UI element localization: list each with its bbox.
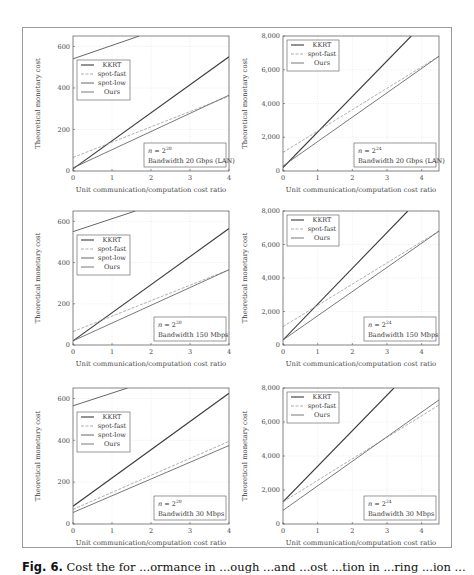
x-tick-label: 1 [110,174,114,182]
legend: KKRTspot-fastOurs [287,215,339,246]
y-axis-label: Theoretical monetary cost [34,58,42,149]
legend-entry: KKRT [103,413,122,421]
x-tick-label: 3 [188,174,192,182]
x-tick-label: 3 [385,527,389,535]
legend-entry: KKRT [313,41,332,49]
y-tick-label: 400 [58,259,70,267]
y-tick-label: 2,000 [261,486,280,494]
legend-entry: spot-fast [98,245,127,253]
legend-entry: spot-fast [308,50,337,58]
svg-text:Bandwidth 30 Mbps: Bandwidth 30 Mbps [368,510,434,518]
legend-entry: Ours [314,411,330,419]
y-tick-label: 400 [58,84,70,92]
y-tick-label: 0 [276,520,280,528]
y-axis-label: Theoretical monetary cost [241,410,249,501]
legend-entry: spot-fast [98,70,127,78]
legend-entry: spot-low [98,431,126,439]
chart-panel-top-left: 012340200400600Unit communication/comput… [34,36,235,194]
x-tick-label: 4 [420,348,424,356]
y-tick-label: 6,000 [261,66,280,74]
x-tick-label: 0 [281,174,285,182]
x-axis-label: Unit communication/computation cost rati… [286,360,436,368]
legend-entry: Ours [104,263,120,271]
x-tick-label: 3 [385,348,389,356]
y-axis-label: Theoretical monetary cost [34,410,42,501]
annotation-box: n = 224Bandwidth 150 Mbps [364,317,438,341]
y-tick-label: 0 [66,341,70,349]
x-tick-label: 2 [350,527,354,535]
chart-panel-bottom-left: 012340200400600Unit communication/comput… [34,388,231,547]
x-axis-label: Unit communication/computation cost rati… [286,186,436,194]
x-tick-label: 3 [385,174,389,182]
y-tick-label: 200 [58,478,70,486]
svg-text:Bandwidth 150 Mbps: Bandwidth 150 Mbps [158,331,228,339]
x-tick-label: 4 [420,174,424,182]
legend-entry: KKRT [313,393,332,401]
svg-text:Bandwidth 30 Mbps: Bandwidth 30 Mbps [158,510,224,518]
y-tick-label: 600 [58,395,70,403]
legend: KKRTspot-fastOurs [287,40,339,71]
x-tick-label: 1 [316,527,320,535]
svg-text:Bandwidth 150 Mbps: Bandwidth 150 Mbps [368,331,438,339]
x-tick-label: 2 [350,348,354,356]
x-axis-label: Unit communication/computation cost rati… [76,539,226,547]
y-tick-label: 2,000 [261,133,280,141]
x-tick-label: 4 [227,348,231,356]
y-axis-label: Theoretical monetary cost [34,232,42,323]
legend-entry: Ours [104,440,120,448]
chart-panel-middle-right: 0123402,0004,0006,0008,000Unit communica… [241,207,439,368]
x-tick-label: 1 [316,174,320,182]
y-tick-label: 0 [66,167,70,175]
x-tick-label: 4 [420,527,424,535]
chart-panel-bottom-right: 0123402,0004,0006,0008,000Unit communica… [241,384,439,547]
svg-text:Bandwidth 20 Gbps (LAN): Bandwidth 20 Gbps (LAN) [358,157,445,165]
y-tick-label: 0 [66,520,70,528]
legend: KKRTspot-fastspot-lowOurs [77,60,130,100]
x-tick-label: 2 [350,174,354,182]
legend-entry: Ours [104,88,120,96]
x-tick-label: 4 [227,174,231,182]
x-tick-label: 1 [110,348,114,356]
x-tick-label: 1 [316,348,320,356]
legend-entry: spot-fast [98,422,127,430]
series-spot-low [73,388,128,406]
x-tick-label: 0 [71,174,75,182]
legend-entry: Ours [314,234,330,242]
y-tick-label: 600 [58,218,70,226]
y-tick-label: 200 [58,300,70,308]
legend-entry: spot-fast [308,402,337,410]
annotation-box: n = 224Bandwidth 20 Gbps (LAN) [354,143,445,167]
figure-caption: Fig. 6. Cost the for ...ormance in ...ou… [22,560,466,574]
y-tick-label: 600 [58,43,70,51]
chart-panel-middle-left: 012340200400600Unit communication/comput… [34,211,231,368]
x-tick-label: 0 [281,527,285,535]
y-tick-label: 200 [58,126,70,134]
x-axis-label: Unit communication/computation cost rati… [76,360,226,368]
x-tick-label: 1 [110,527,114,535]
legend-entry: KKRT [103,61,122,69]
y-tick-label: 4,000 [261,100,280,108]
x-tick-label: 2 [149,174,153,182]
y-tick-label: 8,000 [261,32,280,40]
annotation-box: n = 220Bandwidth 20 Gbps (LAN) [144,143,235,167]
x-tick-label: 2 [149,348,153,356]
y-tick-label: 8,000 [261,207,280,215]
legend-entry: KKRT [103,236,122,244]
y-tick-label: 6,000 [261,418,280,426]
y-tick-label: 0 [276,341,280,349]
svg-text:Bandwidth 20 Gbps (LAN): Bandwidth 20 Gbps (LAN) [148,157,235,165]
x-tick-label: 4 [227,527,231,535]
legend: KKRTspot-fastOurs [287,392,339,423]
x-tick-label: 0 [71,348,75,356]
x-tick-label: 3 [188,527,192,535]
y-tick-label: 4,000 [261,452,280,460]
annotation-box: n = 220Bandwidth 30 Mbps [154,496,226,520]
figure-panels: 012340200400600Unit communication/comput… [0,0,474,575]
y-tick-label: 2,000 [261,308,280,316]
x-tick-label: 2 [149,527,153,535]
annotation-box: n = 220Bandwidth 150 Mbps [154,317,228,341]
legend-entry: Ours [314,59,330,67]
x-tick-label: 0 [281,348,285,356]
y-axis-label: Theoretical monetary cost [241,58,249,149]
annotation-box: n = 224Bandwidth 30 Mbps [364,496,436,520]
